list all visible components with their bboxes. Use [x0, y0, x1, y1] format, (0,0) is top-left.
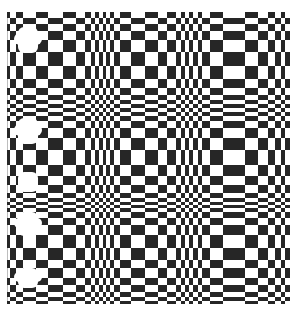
checker-cell: [167, 202, 176, 205]
checker-cell: [181, 150, 185, 165]
checker-cell: [258, 185, 268, 193]
checker-cell: [198, 218, 202, 225]
checker-cell: [106, 138, 110, 150]
checker-cell: [285, 205, 290, 208]
white-blob-shape: [14, 33, 42, 45]
checker-cell: [95, 40, 99, 52]
checker-cell: [158, 95, 167, 100]
checker-cell: [145, 193, 158, 198]
checker-cell: [202, 285, 210, 292]
checker-cell: [110, 301, 114, 304]
checker-cell: [36, 208, 48, 212]
checker-cell: [202, 248, 210, 260]
checker-cell: [198, 301, 202, 304]
checker-cell: [7, 150, 10, 165]
checker-cell: [198, 66, 202, 79]
checker-cell: [131, 205, 145, 208]
checker-cell: [48, 285, 63, 292]
checker-cell: [210, 292, 223, 297]
checker-cell: [106, 185, 110, 193]
checker-cell: [36, 193, 48, 198]
checker-cell: [176, 138, 181, 150]
checker-cell: [95, 88, 99, 95]
checker-cell: [245, 128, 258, 138]
checker-cell: [106, 165, 110, 176]
checker-cell: [63, 12, 76, 18]
checker-cell: [181, 218, 185, 225]
checker-cell: [103, 88, 106, 95]
checker-cell: [245, 235, 258, 248]
checker-cell: [176, 31, 181, 40]
checker-cell: [106, 52, 110, 66]
checker-cell: [76, 138, 85, 150]
checker-cell: [210, 193, 223, 198]
checker-cell: [7, 88, 10, 95]
checker-cell: [167, 24, 176, 31]
checker-cell: [202, 225, 210, 235]
checker-cell: [268, 116, 275, 121]
checker-cell: [198, 40, 202, 52]
checker-cell: [258, 205, 268, 208]
checker-cell: [145, 100, 158, 104]
checker-cell: [85, 218, 91, 225]
checker-cell: [181, 176, 185, 185]
checker-cell: [99, 31, 103, 40]
checker-cell: [76, 121, 85, 128]
checker-cell: [285, 198, 290, 202]
checker-cell: [110, 66, 114, 79]
checker-cell: [114, 31, 120, 40]
checker-cell: [106, 225, 110, 235]
checker-cell: [245, 66, 258, 79]
checker-cell: [114, 52, 120, 66]
checker-cell: [258, 225, 268, 235]
checker-cell: [36, 292, 48, 297]
checker-cell: [110, 260, 114, 268]
checker-cell: [145, 202, 158, 205]
checker-cell: [76, 268, 85, 278]
checker-cell: [110, 218, 114, 225]
checker-cell: [99, 248, 103, 260]
checker-cell: [85, 278, 91, 285]
checker-cell: [189, 301, 193, 304]
checker-cell: [185, 268, 189, 278]
checker-cell: [63, 40, 76, 52]
checker-cell: [103, 66, 106, 79]
checker-cell: [193, 52, 198, 66]
checker-cell: [99, 52, 103, 66]
checker-cell: [10, 52, 16, 66]
checker-cell: [7, 24, 10, 31]
checker-cell: [76, 297, 85, 301]
checker-cell: [48, 138, 63, 150]
checker-cell: [167, 193, 176, 198]
checker-cell: [106, 285, 110, 292]
checker-cell: [10, 138, 16, 150]
checker-cell: [181, 301, 185, 304]
checker-cell: [268, 260, 275, 268]
checker-cell: [189, 278, 193, 285]
checker-cell: [95, 24, 99, 31]
checker-cell: [48, 198, 63, 202]
checker-cell: [167, 108, 176, 112]
checker-cell: [48, 31, 63, 40]
checker-cell: [10, 185, 16, 193]
checker-cell: [120, 108, 131, 112]
checker-cell: [268, 88, 275, 95]
checker-cell: [285, 104, 290, 108]
checker-cell: [145, 278, 158, 285]
checker-cell: [167, 12, 176, 18]
checker-cell: [110, 150, 114, 165]
checker-cell: [268, 218, 275, 225]
checker-cell: [131, 198, 145, 202]
checker-cell: [91, 138, 95, 150]
checker-cell: [158, 165, 167, 176]
checker-cell: [275, 52, 281, 66]
checker-cell: [258, 31, 268, 40]
checker-cell: [176, 121, 181, 128]
checker-cell: [36, 66, 48, 79]
checker-cell: [48, 104, 63, 108]
checker-cell: [95, 150, 99, 165]
checker-cell: [85, 66, 91, 79]
checker-cell: [145, 176, 158, 185]
checker-cell: [275, 248, 281, 260]
checker-cell: [145, 88, 158, 95]
